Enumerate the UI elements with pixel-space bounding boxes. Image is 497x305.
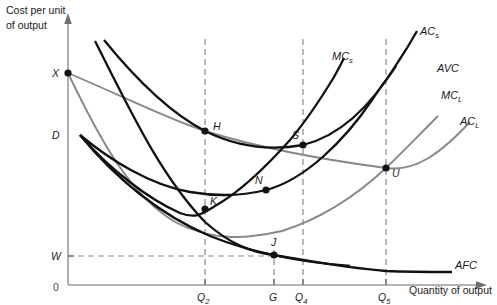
y-label-w: W [51,250,62,262]
x-label-q5: Q5 [378,291,391,305]
x-tick-marks [205,279,386,285]
y-label-x: X [51,67,60,79]
x-label-q5-sub: 5 [386,297,391,305]
curve-ac-s [104,31,417,148]
curve-label-mc-s-sub: s [349,56,353,65]
curve-label-afc: AFC [454,259,477,271]
curve-label-ac-l-base: AC [459,115,475,127]
point-label-s: S [292,129,299,141]
curve-label-ac-s-base: AC [419,25,435,37]
y-label-d: D [52,129,60,141]
point-x [64,69,71,76]
curve-label-ac-s: ACs [419,25,439,40]
point-s [299,141,306,148]
point-label-n: N [255,174,263,186]
long-run-curves-group [68,73,470,237]
cost-curves-figure: H S N K U J X D W 0 Q2 G Q4 Q5 [0,0,497,305]
curve-label-mc-l-sub: L [458,95,462,104]
point-label-j: J [270,236,277,248]
axis-titles-group: Cost per unit of output Quantity of outp… [6,4,492,296]
point-label-k: K [210,195,218,207]
origin-label: 0 [53,281,59,293]
curve-label-ac-l-sub: L [475,121,479,130]
point-label-u: U [392,167,400,179]
y-axis-labels-group: X D W 0 [51,67,62,293]
x-label-q4: Q4 [295,291,307,305]
marked-points-group [64,69,389,258]
curve-avc [80,66,396,195]
x-label-q2-sub: 2 [204,297,210,305]
x-label-q4-base: Q [295,291,303,303]
curve-label-ac-s-sub: s [435,31,439,40]
curve-label-mc-l: MCL [441,89,462,104]
curve-mc-s [80,58,344,216]
point-k [201,205,208,212]
point-n [262,186,269,193]
cost-curves-svg: H S N K U J X D W 0 Q2 G Q4 Q5 [0,0,497,305]
point-u [382,164,389,171]
short-run-curves-group [80,31,452,272]
point-label-h: H [213,120,221,132]
curve-label-mc-s-base: MC [332,50,349,62]
x-axis-labels-group: Q2 G Q4 Q5 [197,291,391,305]
y-axis-title-line1: Cost per unit [6,4,66,16]
point-labels-group: H S N K U J [210,120,400,248]
x-label-q5-base: Q [378,291,386,303]
x-label-q2: Q2 [197,291,210,305]
x-axis-title: Quantity of output [409,284,492,296]
curve-label-ac-l: ACL [459,115,479,130]
x-label-g-base: G [269,291,277,303]
x-label-q2-base: Q [197,291,205,303]
point-h [201,127,208,134]
curve-label-mc-l-base: MC [441,89,458,101]
y-axis-title-line2: of output [6,19,47,31]
point-j [270,251,277,258]
x-label-q4-sub: 4 [303,297,307,305]
x-label-g: G [269,291,277,303]
curve-label-avc: AVC [436,62,459,74]
curve-ac-l [68,73,470,169]
